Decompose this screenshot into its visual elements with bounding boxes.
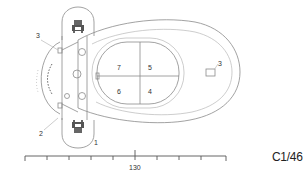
bottom-fixture-icon — [72, 120, 84, 133]
compartment-label-6: 6 — [117, 88, 121, 95]
reference-code: C1/46 — [272, 150, 303, 164]
compartment-label-7: 7 — [117, 64, 121, 71]
callout-1: 1 — [94, 139, 98, 146]
left-handle-arc — [37, 42, 63, 114]
callout-leaders — [41, 40, 58, 130]
top-fixture-icon — [72, 20, 84, 33]
main-body — [78, 20, 240, 123]
inner-basin — [92, 38, 184, 108]
callout-2: 2 — [39, 130, 43, 137]
compartment-label-5: 5 — [148, 64, 152, 71]
scale-bar — [25, 150, 226, 161]
technical-drawing: 7 5 6 4 3 2 1 3 130 — [0, 0, 308, 185]
callout-3-right: 3 — [218, 60, 222, 67]
right-outlet — [206, 64, 218, 76]
compartment-label-4: 4 — [148, 88, 152, 95]
scale-label: 130 — [129, 164, 141, 171]
callout-3-left: 3 — [36, 32, 40, 39]
